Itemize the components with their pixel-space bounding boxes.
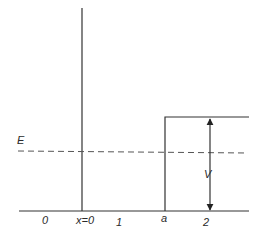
region-2-label: 2 [202,216,209,228]
region-0-label: 0 [42,214,49,226]
potential-step [165,117,249,211]
region-1-label: 1 [116,216,122,228]
potential-label: V [204,168,213,180]
origin-label: x=0 [75,214,95,226]
energy-level-line [18,151,248,153]
step-position-label: a [161,212,167,224]
energy-label: E [17,134,25,146]
potential-step-diagram: E V 0 x=0 1 a 2 [0,0,262,243]
